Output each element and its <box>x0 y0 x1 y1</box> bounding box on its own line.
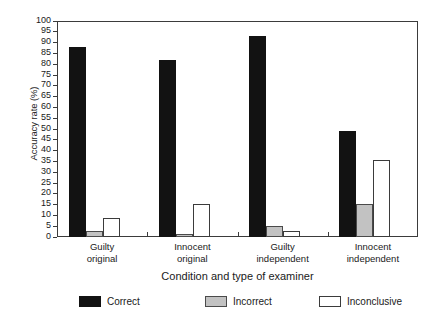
y-tick-label: 80 <box>41 58 51 69</box>
legend-item-inconclusive: Inconclusive <box>319 296 402 307</box>
bar-incorrect-3 <box>266 226 283 237</box>
legend-item-correct: Correct <box>79 296 140 307</box>
x-group-label-1: Guiltyoriginal <box>57 241 147 264</box>
y-tick-label: 35 <box>41 155 51 166</box>
bar-incorrect-1 <box>86 231 103 237</box>
y-tick-label: 50 <box>41 123 51 134</box>
bar-chart-figure: Accuracy rate (%) 0510152025303540455055… <box>0 0 434 330</box>
y-tick-label: 65 <box>41 90 51 101</box>
bar-correct-1 <box>69 47 86 237</box>
x-group-label-4: Innocentindependent <box>328 241 418 264</box>
y-tick-label: 5 <box>46 220 51 231</box>
legend-swatch-incorrect <box>205 296 227 307</box>
y-tick-label: 75 <box>41 69 51 80</box>
bar-correct-3 <box>249 36 266 237</box>
x-group-label-line: original <box>147 253 237 265</box>
bar-inconclusive-3 <box>283 231 300 237</box>
x-tick-mark <box>238 232 239 237</box>
x-group-label-line: Guilty <box>238 241 328 253</box>
y-tick-label: 25 <box>41 177 51 188</box>
x-group-label-3: Guiltyindependent <box>238 241 328 264</box>
y-tick-label: 100 <box>36 15 51 26</box>
bar-correct-2 <box>159 60 176 237</box>
y-tick-label: 90 <box>41 36 51 47</box>
legend-label: Inconclusive <box>347 296 402 307</box>
x-group-label-line: Innocent <box>328 241 418 253</box>
y-tick-label: 15 <box>41 198 51 209</box>
x-group-label-line: Innocent <box>147 241 237 253</box>
y-tick-label: 0 <box>46 231 51 242</box>
bar-inconclusive-2 <box>193 204 210 237</box>
bar-inconclusive-1 <box>103 218 120 237</box>
bars-layer <box>57 21 418 237</box>
y-tick-label: 40 <box>41 144 51 155</box>
y-tick-label: 60 <box>41 101 51 112</box>
x-tick-mark <box>328 232 329 237</box>
y-tick-label: 10 <box>41 209 51 220</box>
chart-legend: CorrectIncorrectInconclusive <box>57 296 418 314</box>
y-axis-title: Accuracy rate (%) <box>28 39 39 209</box>
y-tick-label: 55 <box>41 112 51 123</box>
bar-incorrect-2 <box>176 234 193 237</box>
bar-incorrect-4 <box>356 204 373 237</box>
y-tick-label: 95 <box>41 25 51 36</box>
legend-swatch-inconclusive <box>319 296 341 307</box>
x-group-label-line: Guilty <box>57 241 147 253</box>
y-tick-label: 20 <box>41 187 51 198</box>
bar-inconclusive-4 <box>373 160 390 237</box>
x-group-label-line: independent <box>238 253 328 265</box>
x-group-label-line: independent <box>328 253 418 265</box>
bar-correct-4 <box>339 131 356 237</box>
y-tick-label: 30 <box>41 166 51 177</box>
x-group-label-2: Innocentoriginal <box>147 241 237 264</box>
x-group-label-line: original <box>57 253 147 265</box>
x-tick-mark <box>147 232 148 237</box>
x-axis-title: Condition and type of examiner <box>57 270 418 282</box>
y-tick-label: 45 <box>41 133 51 144</box>
legend-label: Incorrect <box>233 296 272 307</box>
y-tick-label: 85 <box>41 47 51 58</box>
legend-item-incorrect: Incorrect <box>205 296 272 307</box>
y-tick-label: 70 <box>41 79 51 90</box>
legend-swatch-correct <box>79 296 101 307</box>
x-axis-group-labels: GuiltyoriginalInnocentoriginalGuiltyinde… <box>57 241 418 267</box>
legend-label: Correct <box>107 296 140 307</box>
